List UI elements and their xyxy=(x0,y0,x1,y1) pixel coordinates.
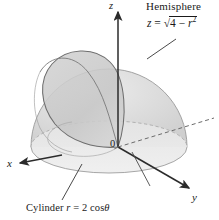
radicand-exponent: 2 xyxy=(193,15,197,24)
equation-equals: = xyxy=(154,17,161,29)
hemisphere-leader-line xyxy=(147,39,176,59)
figure-container: Hemisphere z = √4 − r2 Cylinder r = 2 co… xyxy=(0,0,219,220)
cylinder-label: Cylinder r = 2 cosθ xyxy=(26,203,110,214)
cylinder-var: r xyxy=(66,202,70,213)
equation-lhs: z xyxy=(147,17,151,29)
theta-symbol: θ xyxy=(104,202,109,213)
radicand-lead: 4 − xyxy=(170,17,188,29)
cylinder-equals: = xyxy=(73,202,79,213)
hemisphere-equation: z = √4 − r2 xyxy=(147,18,197,30)
y-axis-label: y xyxy=(192,192,197,203)
z-axis-label: z xyxy=(109,1,113,12)
hemisphere-label: Hemisphere xyxy=(146,1,201,12)
cylinder-word: Cylinder xyxy=(26,202,64,213)
x-axis-label: x xyxy=(7,158,12,169)
diagram-canvas xyxy=(0,0,219,220)
cylinder-value: 2 cos xyxy=(82,202,104,213)
origin-label: 0 xyxy=(110,139,115,150)
radicand: 4 − r2 xyxy=(169,16,197,29)
